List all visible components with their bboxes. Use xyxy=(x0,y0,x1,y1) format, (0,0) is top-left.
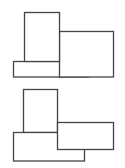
figure-bottom-right-block xyxy=(58,123,114,150)
figure-top-right-block xyxy=(60,32,114,78)
block-diagram xyxy=(0,0,125,168)
figure-bottom-tall-block xyxy=(24,90,58,133)
figure-top xyxy=(14,13,114,78)
figure-top-tall-block xyxy=(25,13,60,62)
figure-bottom xyxy=(14,90,114,162)
